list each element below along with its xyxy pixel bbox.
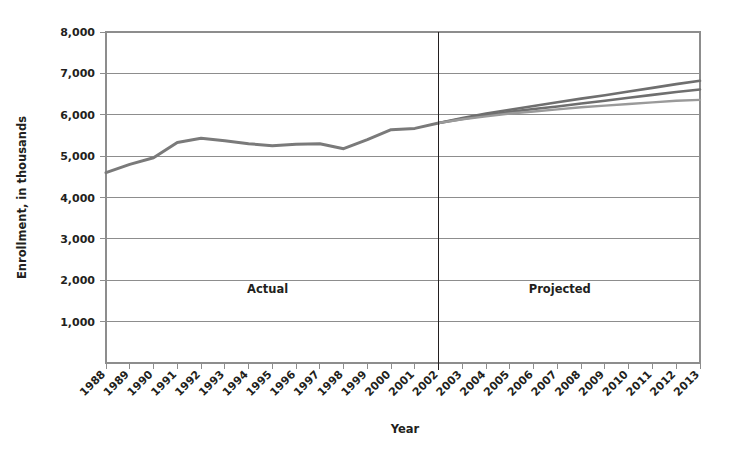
region-label-actual: Actual: [247, 282, 288, 296]
x-tick-label: 2010: [600, 368, 631, 399]
y-tick-label: 4,000: [60, 192, 95, 205]
data-series: [106, 81, 700, 173]
y-axis-title: Enrollment, in thousands: [15, 116, 29, 279]
region-annotations: ActualProjected: [247, 282, 591, 296]
series-line-3: [439, 100, 700, 123]
x-tick-label: 1990: [125, 368, 156, 399]
x-tick-label: 2011: [624, 368, 655, 399]
x-tick-label: 1989: [101, 368, 132, 399]
y-tick-label: 5,000: [60, 150, 95, 163]
y-tick-label: 6,000: [60, 109, 95, 122]
x-tick-label: 1992: [172, 368, 203, 399]
x-tick-label: 2009: [576, 368, 607, 399]
x-tick-label: 2007: [529, 368, 560, 399]
x-tick-label: 2000: [362, 368, 393, 399]
y-tick-label: 3,000: [60, 233, 95, 246]
x-tick-label: 2004: [457, 368, 488, 399]
x-tick-label: 2002: [410, 368, 441, 399]
x-tick-label: 2012: [648, 368, 679, 399]
x-tick-label: 2001: [386, 368, 417, 399]
y-axis-tick-labels: 1,0002,0003,0004,0005,0006,0007,0008,000: [60, 26, 95, 329]
x-tick-label: 1998: [315, 368, 346, 399]
x-tick-label: 1988: [77, 368, 108, 399]
x-tick-label: 2008: [552, 368, 583, 399]
x-tick-label: 1991: [149, 368, 180, 399]
x-tick-label: 1997: [291, 368, 322, 399]
y-tick-label: 7,000: [60, 67, 95, 80]
x-tick-label: 1996: [267, 368, 298, 399]
x-tick-label: 2003: [434, 368, 465, 399]
axis-tickmarks: [100, 32, 700, 369]
x-axis-title: Year: [390, 422, 420, 436]
y-tick-label: 1,000: [60, 316, 95, 329]
x-tick-label: 2005: [481, 368, 512, 399]
region-label-projected: Projected: [529, 282, 591, 296]
x-tick-label: 2013: [671, 368, 702, 399]
y-tick-label: 2,000: [60, 274, 95, 287]
x-tick-label: 1994: [220, 368, 251, 399]
x-tick-label: 2006: [505, 368, 536, 399]
x-tick-label: 1995: [244, 368, 275, 399]
x-axis-tick-labels: 1988198919901991199219931994199519961997…: [77, 368, 702, 399]
gridlines: [106, 32, 700, 322]
x-tick-label: 1999: [339, 368, 370, 399]
enrollment-line-chart: 1,0002,0003,0004,0005,0006,0007,0008,000…: [0, 0, 741, 460]
series-line-0: [106, 123, 439, 173]
y-tick-label: 8,000: [60, 26, 95, 39]
x-tick-label: 1993: [196, 368, 227, 399]
chart-figure: 1,0002,0003,0004,0005,0006,0007,0008,000…: [0, 0, 741, 460]
